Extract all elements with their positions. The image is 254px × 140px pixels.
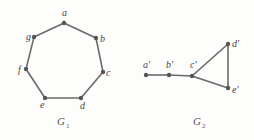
vertex-label: e' — [232, 84, 239, 95]
edge-b'-c' — [169, 75, 192, 76]
vertex-label: d' — [232, 38, 240, 49]
edge-c'-d' — [192, 44, 228, 76]
vertex-label: c' — [190, 59, 197, 70]
vertex-label: b' — [166, 59, 174, 70]
vertex-label: d — [80, 100, 86, 111]
vertex-f — [24, 67, 28, 71]
vertex-label: f — [18, 64, 22, 75]
graph-title-g1: G1 — [57, 115, 70, 130]
vertex-b' — [167, 73, 171, 77]
graph-diagram: abcdefgG1 a'b'c'd'e'G2 — [0, 0, 254, 140]
edge-c-d — [81, 72, 103, 98]
vertex-label: a' — [143, 59, 151, 70]
vertex-a' — [144, 73, 148, 77]
vertex-g — [32, 35, 36, 39]
vertex-d' — [226, 42, 230, 46]
vertex-b — [94, 36, 98, 40]
edge-a-b — [64, 23, 96, 38]
vertex-c — [101, 70, 105, 74]
vertex-label: e — [40, 99, 45, 110]
vertex-a — [62, 21, 66, 25]
graph-g2: a'b'c'd'e'G2 — [143, 38, 240, 130]
vertex-label: g — [26, 31, 31, 42]
vertex-label: a — [62, 7, 67, 18]
edge-e-f — [26, 69, 45, 98]
vertex-label: c — [106, 67, 111, 78]
edge-e'-c' — [192, 76, 228, 88]
edge-g-a — [34, 23, 64, 37]
vertex-e' — [226, 86, 230, 90]
graph-title-g2: G2 — [193, 115, 206, 130]
graph-g1: abcdefgG1 — [18, 7, 111, 130]
vertex-label: b — [100, 33, 105, 44]
vertex-c' — [190, 74, 194, 78]
